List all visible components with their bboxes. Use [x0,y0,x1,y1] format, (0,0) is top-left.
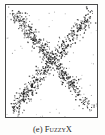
caption-label: (e) [33,124,43,134]
caption-title: FuzzyX [45,124,72,134]
scatter-plot-canvas [6,5,97,117]
scatter-plot-frame [5,4,98,118]
figure-caption: (e)FuzzyX [0,124,105,134]
figure-panel: (e)FuzzyX [0,0,105,135]
